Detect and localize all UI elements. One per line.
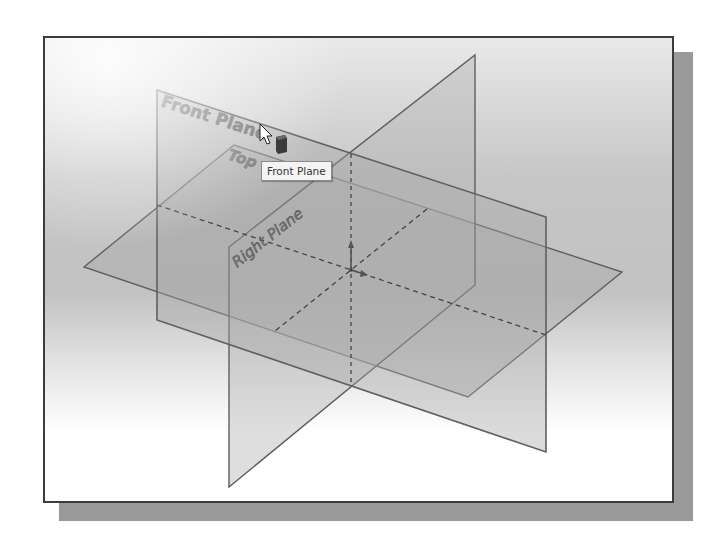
plane-icon — [276, 135, 287, 154]
plane-scene: Front Plane Top Right Plane — [45, 38, 674, 503]
plane-tooltip: Front Plane — [261, 161, 332, 181]
graphics-viewport[interactable]: Front Plane Top Right Plane — [43, 36, 674, 503]
arrow-cursor-with-plane-icon — [258, 123, 294, 157]
